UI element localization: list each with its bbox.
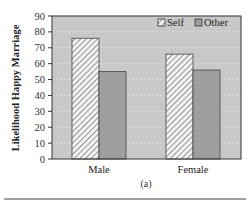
figure: 0102030405060708090 MaleFemale SelfOther… xyxy=(0,0,249,203)
legend-label-other: Other xyxy=(204,17,228,28)
bar-other-male xyxy=(99,72,126,159)
x-tick-label: Female xyxy=(178,164,209,175)
legend-swatch-self xyxy=(158,19,165,26)
legend-swatch-other xyxy=(195,19,202,26)
y-tick-label: 70 xyxy=(35,42,46,53)
x-tick-label: Male xyxy=(88,164,110,175)
bar-self-male xyxy=(72,38,99,159)
y-axis-label: Likelihood Happy Marriage xyxy=(10,24,21,151)
x-axis: MaleFemale xyxy=(88,164,209,175)
y-tick-label: 90 xyxy=(35,11,46,22)
y-tick-label: 50 xyxy=(35,74,46,85)
y-tick-label: 0 xyxy=(40,154,45,165)
bar-self-female xyxy=(166,54,193,159)
y-tick-label: 80 xyxy=(35,26,46,37)
y-tick-label: 10 xyxy=(35,138,46,149)
bar-chart: 0102030405060708090 MaleFemale SelfOther… xyxy=(0,0,249,203)
y-tick-label: 40 xyxy=(35,90,46,101)
legend-label-self: Self xyxy=(167,17,184,28)
y-tick-label: 60 xyxy=(35,58,46,69)
figure-caption: (a) xyxy=(140,178,151,190)
y-tick-label: 30 xyxy=(35,106,46,117)
y-axis: 0102030405060708090 xyxy=(35,11,53,165)
y-tick-label: 20 xyxy=(35,122,46,133)
bar-other-female xyxy=(193,70,220,159)
